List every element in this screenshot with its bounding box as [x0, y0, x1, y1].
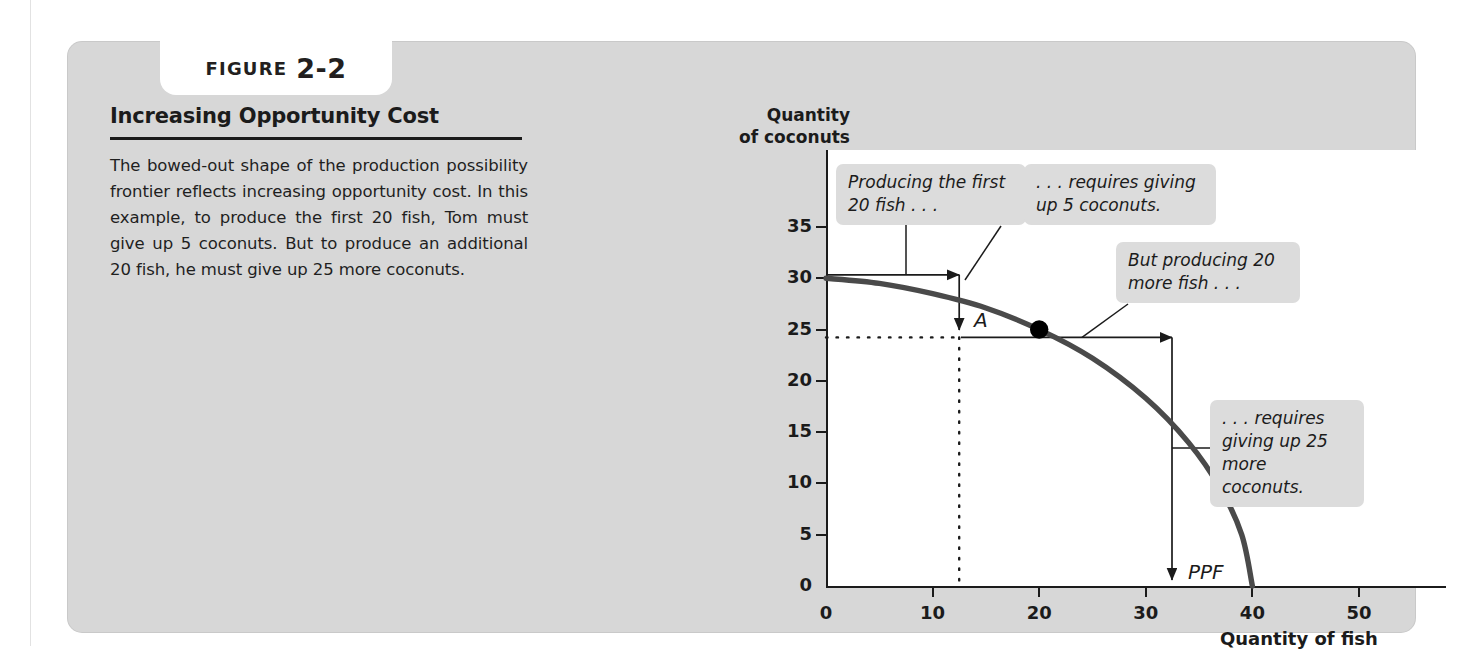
- data-point-a: [1030, 320, 1048, 338]
- annotation-producing-first-20-fish: Producing the first 20 fish . . .: [836, 164, 1026, 225]
- ppf-curve-label: PPF: [1188, 560, 1224, 584]
- ppf-chart: Quantity of coconuts 05101520253035 0102…: [758, 108, 1398, 638]
- figure-panel: FIGURE 2-2 Increasing Opportunity Cost T…: [68, 42, 1415, 632]
- leader-line-a3: [1082, 304, 1128, 337]
- annotation-requires-giving-up-25: . . . requires giving up 25 more coconut…: [1210, 400, 1364, 507]
- title-divider: [110, 137, 522, 140]
- figure-text-column: Increasing Opportunity Cost The bowed-ou…: [110, 104, 528, 283]
- point-a-label: A: [974, 308, 988, 332]
- figure-number-tab: FIGURE 2-2: [160, 41, 392, 95]
- figure-word-label: FIGURE: [205, 58, 287, 79]
- page-margin-rule: [30, 0, 31, 646]
- figure-title: Increasing Opportunity Cost: [110, 104, 528, 128]
- figure-number-label: 2-2: [296, 53, 346, 84]
- figure-description: The bowed-out shape of the production po…: [110, 153, 528, 283]
- annotation-but-producing-20-more: But producing 20 more fish . . .: [1116, 242, 1300, 303]
- leader-line-a2: [965, 226, 1001, 280]
- annotation-requires-giving-up-5: . . . requires giving up 5 coconuts.: [1024, 164, 1216, 225]
